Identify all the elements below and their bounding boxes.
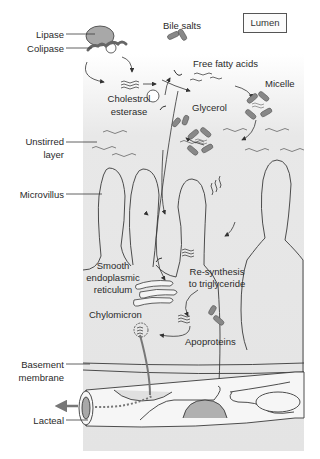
- label-resynthesis: Re-synthesis: [182, 266, 252, 277]
- label-microvillus: Microvillus: [0, 189, 64, 200]
- label-micelle: Micelle: [265, 78, 295, 89]
- label-apoproteins: Apoproteins: [185, 336, 236, 347]
- label-endoplasmic: endoplasmic: [85, 272, 141, 283]
- label-cholesterol: Cholestrol: [106, 93, 152, 104]
- fat-absorption-diagram: [0, 0, 320, 459]
- label-free-fatty-acids: Free fatty acids: [193, 58, 258, 69]
- label-chylomicron: Chylomicron: [89, 309, 142, 320]
- label-layer: layer: [0, 149, 64, 160]
- label-smooth: Smooth: [85, 260, 141, 271]
- label-membrane: membrane: [0, 372, 64, 383]
- label-lipase: Lipase: [0, 29, 64, 40]
- label-basement: Basement: [0, 359, 64, 370]
- label-esterase: esterase: [106, 106, 152, 117]
- label-unstirred: Unstirred: [0, 136, 64, 147]
- label-to-triglyceride: to triglyceride: [182, 278, 252, 289]
- label-lacteal: Lacteal: [0, 415, 64, 426]
- label-bile-salts: Bile salts: [163, 20, 201, 31]
- label-colipase: Colipase: [0, 43, 64, 54]
- label-glycerol: Glycerol: [192, 102, 227, 113]
- label-reticulum: reticulum: [85, 284, 141, 295]
- lumen-label-box: Lumen: [243, 13, 287, 33]
